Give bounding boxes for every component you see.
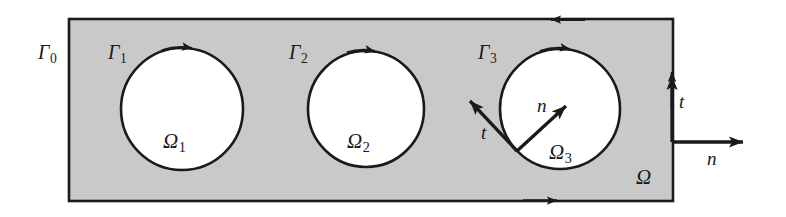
label-gamma-3-sub: 3	[490, 51, 497, 66]
label-omega-1: Ω1	[163, 131, 186, 154]
domain-diagram	[0, 0, 786, 217]
label-omega-base: Ω	[636, 165, 651, 189]
label-t-inner-text: t	[481, 122, 486, 143]
label-t-outer-text: t	[679, 91, 684, 112]
label-gamma-1-base: Γ	[108, 41, 119, 63]
label-omega-1-base: Ω	[163, 129, 178, 153]
label-omega-2-sub: 2	[363, 139, 370, 155]
label-n-outer: n	[707, 149, 717, 168]
figure-canvas: Γ0 Γ1 Γ2 Γ3 Ω1 Ω2 Ω3 Ω t n t n	[0, 0, 786, 217]
label-t-inner: t	[481, 123, 486, 142]
label-gamma-3-base: Γ	[478, 41, 489, 63]
label-n-inner-text: n	[537, 95, 547, 116]
label-gamma-1: Γ1	[108, 42, 127, 65]
label-omega-2: Ω2	[347, 131, 370, 154]
label-omega-2-base: Ω	[347, 129, 362, 153]
label-gamma-0-sub: 0	[50, 51, 57, 66]
label-gamma-1-sub: 1	[120, 51, 127, 66]
label-omega-3-sub: 3	[565, 150, 572, 166]
label-n-inner: n	[537, 96, 547, 115]
label-omega-3: Ω3	[549, 142, 572, 165]
label-t-outer: t	[679, 92, 684, 111]
label-gamma-2-sub: 2	[301, 51, 308, 66]
label-n-outer-text: n	[707, 148, 717, 169]
shaded-domain	[69, 19, 673, 201]
label-gamma-0: Γ0	[38, 42, 57, 65]
label-gamma-3: Γ3	[478, 42, 497, 65]
label-omega: Ω	[636, 167, 651, 188]
label-omega-3-base: Ω	[549, 140, 564, 164]
label-gamma-2: Γ2	[289, 42, 308, 65]
label-omega-1-sub: 1	[179, 139, 186, 155]
label-gamma-0-base: Γ	[38, 41, 49, 63]
label-gamma-2-base: Γ	[289, 41, 300, 63]
